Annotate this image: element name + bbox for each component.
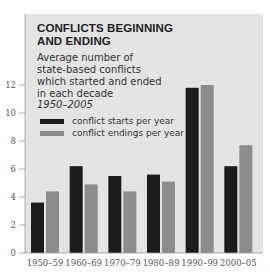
chart-title-line-2: AND ENDING (37, 35, 111, 47)
x-tick-label: 1950–59 (27, 258, 64, 268)
y-tick-label: 0 (11, 248, 16, 258)
bar-endings-5 (239, 145, 252, 253)
x-tick-label: 1980–89 (143, 258, 180, 268)
chart-subtitle-line-2: state-based conflicts (37, 64, 141, 75)
x-tick-label: 2000–05 (220, 258, 257, 268)
bar-starts-0 (31, 203, 44, 253)
y-tick-label: 6 (11, 164, 16, 174)
legend-swatch-starts (40, 119, 64, 124)
bar-endings-1 (85, 184, 98, 253)
legend-label-starts: conflict starts per year (72, 116, 174, 126)
x-tick-label: 1960–69 (65, 258, 102, 268)
bar-endings-0 (46, 191, 59, 253)
bar-endings-2 (123, 191, 136, 253)
legend-swatch-endings (40, 131, 64, 136)
x-tick-label: 1990–99 (181, 258, 218, 268)
bar-starts-2 (108, 176, 121, 253)
x-ticks-group: 1950–591960–691970–791980–891990–992000–… (27, 258, 257, 268)
y-tick-label: 12 (5, 80, 16, 90)
legend-label-endings: conflict endings per year (72, 128, 184, 138)
y-tick-label: 4 (11, 192, 16, 202)
chart: 024681012 1950–591960–691970–791980–8919… (0, 0, 270, 273)
bar-starts-5 (224, 166, 237, 253)
y-tick-label: 2 (11, 220, 16, 230)
chart-subtitle-line-1: Average number of (37, 52, 134, 63)
chart-subtitle-period: 1950–2005 (37, 99, 93, 110)
y-tick-label: 10 (5, 108, 16, 118)
chart-title-line-1: CONFLICTS BEGINNING (37, 22, 173, 34)
y-tick-label: 8 (11, 136, 16, 146)
bar-starts-1 (70, 166, 83, 253)
y-ticks-group: 024681012 (5, 80, 25, 258)
bar-endings-3 (162, 182, 175, 253)
chart-subtitle-line-4: in each decade (37, 88, 113, 99)
bar-starts-3 (147, 175, 160, 253)
x-tick-label: 1970–79 (104, 258, 141, 268)
bar-endings-4 (201, 85, 214, 253)
bar-starts-4 (186, 88, 199, 253)
chart-subtitle-line-3: which started and ended (37, 76, 162, 87)
